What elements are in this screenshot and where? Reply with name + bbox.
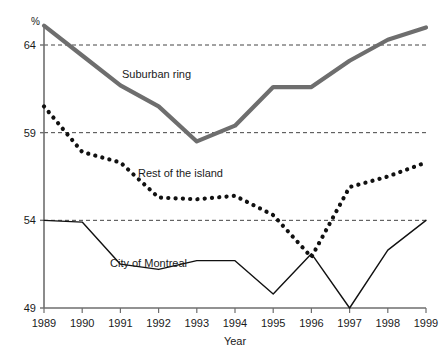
series-label: Rest of the island (138, 167, 223, 179)
series-label: City of Montreal (110, 257, 187, 269)
y-tick-label: 49 (24, 302, 36, 314)
x-tick-label: 1996 (299, 317, 323, 329)
x-tick-label: 1999 (414, 317, 438, 329)
data-series-layer (44, 26, 426, 308)
series-line (44, 26, 426, 142)
chart-container: 49545964 1989199019911992199319941995199… (0, 0, 445, 355)
x-axis-tick-labels: 1989199019911992199319941995199619971998… (32, 317, 438, 329)
y-tick-label: 64 (24, 39, 36, 51)
y-axis-tick-labels: 49545964 (24, 39, 36, 314)
series-line (44, 106, 426, 257)
x-tick-label: 1994 (223, 317, 247, 329)
x-tick-label: 1993 (185, 317, 209, 329)
series-line (44, 220, 426, 308)
line-chart: 49545964 1989199019911992199319941995199… (0, 0, 445, 355)
y-tick-label: 54 (24, 214, 36, 226)
x-tick-label: 1995 (261, 317, 285, 329)
x-tick-label: 1992 (146, 317, 170, 329)
x-tick-label: 1990 (70, 317, 94, 329)
y-axis-unit-label: % (31, 16, 40, 27)
series-label: Suburban ring (122, 68, 191, 80)
x-tick-label: 1989 (32, 317, 56, 329)
x-tick-label: 1997 (337, 317, 361, 329)
x-axis-title: Year (224, 335, 247, 347)
x-tick-label: 1998 (376, 317, 400, 329)
x-tick-label: 1991 (108, 317, 132, 329)
y-tick-label: 59 (24, 127, 36, 139)
